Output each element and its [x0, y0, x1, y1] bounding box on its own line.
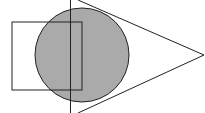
geometry-diagram [0, 0, 205, 113]
